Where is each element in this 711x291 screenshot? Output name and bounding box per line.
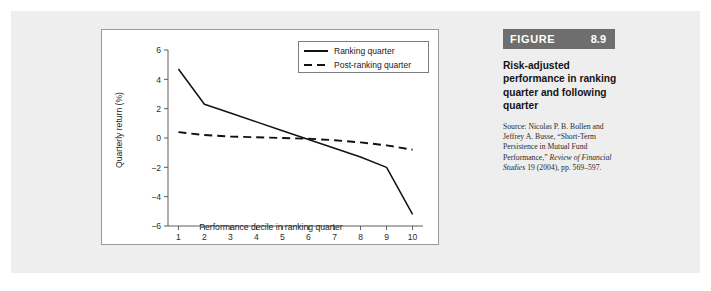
figure-source-note: Source: Nicolas P. B. Bollen and Jeffrey… — [503, 122, 621, 174]
series-line-1 — [178, 69, 412, 214]
x-axis-tick-label: 5 — [280, 232, 285, 242]
x-axis-tick-label: 3 — [228, 232, 233, 242]
legend-label-ranking-quarter: Ranking quarter — [334, 46, 394, 57]
caption-column: FIGURE 8.9 Risk-adjusted performance in … — [503, 29, 627, 174]
figure-tag-number: 8.9 — [591, 33, 615, 45]
x-axis-title: Performance decile in ranking quarter — [102, 222, 440, 232]
figure-tag-banner: FIGURE 8.9 — [503, 29, 615, 49]
legend-item-ranking-quarter: Ranking quarter — [303, 44, 424, 58]
y-axis-tick-label: 6 — [156, 45, 161, 55]
x-axis-tick-label: 4 — [254, 232, 259, 242]
x-axis-tick-label: 9 — [384, 232, 389, 242]
source-line-1: Source: Nicolas P. B. Bollen — [503, 122, 591, 131]
x-axis-tick-label: 8 — [358, 232, 363, 242]
figure-tag-word: FIGURE — [503, 33, 555, 45]
figure-screenshot: 6420−2−4−612345678910 Performance decile… — [0, 0, 711, 291]
legend-solid-line-icon — [303, 46, 329, 56]
x-axis-tick-label: 6 — [306, 232, 311, 242]
x-axis-tick-label: 2 — [202, 232, 207, 242]
x-axis-tick-label: 7 — [332, 232, 337, 242]
y-axis-tick-label: 4 — [156, 75, 161, 85]
legend-label-post-ranking-quarter: Post-ranking quarter — [334, 60, 411, 71]
y-axis-tick-label: −2 — [151, 163, 161, 173]
x-axis-tick-label: 1 — [176, 232, 181, 242]
y-axis-tick-label: −4 — [151, 192, 161, 202]
figure-caption-title: Risk-adjusted performance in ranking qua… — [503, 59, 619, 113]
chart-legend: Ranking quarter Post-ranking quarter — [298, 41, 429, 73]
x-axis-tick-label: 10 — [408, 232, 418, 242]
chart-card: 6420−2−4−612345678910 Performance decile… — [101, 29, 439, 245]
y-axis-title: Quarterly return (%) — [114, 65, 124, 195]
legend-dashed-line-icon — [303, 60, 329, 70]
source-line-6: 19 (2004), pp. 569–597. — [527, 163, 601, 172]
y-axis-tick-label: 2 — [156, 104, 161, 114]
y-axis-tick-label: 0 — [156, 133, 161, 143]
legend-item-post-ranking-quarter: Post-ranking quarter — [303, 58, 424, 72]
